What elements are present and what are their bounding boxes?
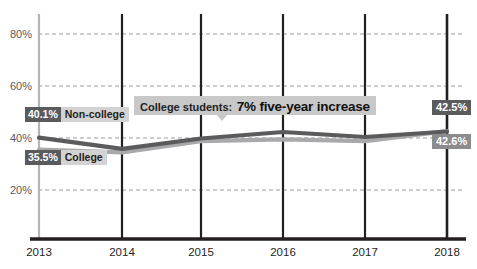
x-tick-2017: 2017 (342, 246, 388, 258)
y-tick-60: 60% (2, 80, 32, 92)
x-tick-2014: 2014 (99, 246, 145, 258)
annotation-callout: College students: 7% five-year increase (134, 96, 376, 115)
x-tick-2016: 2016 (260, 246, 306, 258)
label-college-value: 35.5% (25, 150, 61, 165)
label-college-end-value: 42.6% (432, 134, 471, 149)
x-tick-2015: 2015 (178, 246, 224, 258)
label-noncollege-end: 42.5% (432, 100, 471, 115)
annotation-strong: 7% five-year increase (237, 99, 370, 114)
x-tick-2018: 2018 (424, 246, 470, 258)
label-noncollege-name: Non-college (61, 107, 129, 122)
label-college-start: 35.5% College (25, 150, 107, 165)
y-tick-20: 20% (2, 184, 32, 196)
gridlines-vertical (39, 14, 447, 238)
label-college-name: College (61, 150, 107, 165)
annotation-pointer-icon (216, 114, 228, 121)
label-noncollege-value: 40.1% (25, 107, 61, 122)
label-college-end: 42.6% (432, 134, 471, 149)
y-tick-80: 80% (2, 28, 32, 40)
x-tick-2013: 2013 (16, 246, 62, 258)
y-tick-40: 40% (2, 132, 32, 144)
label-noncollege-end-value: 42.5% (432, 100, 471, 115)
annotation-lead: College students: (140, 101, 232, 113)
chart-container: 80% 60% 40% 20% 2013 2014 2015 2016 2017… (0, 0, 477, 269)
chart-plot-area (0, 0, 477, 269)
label-noncollege-start: 40.1% Non-college (25, 107, 129, 122)
